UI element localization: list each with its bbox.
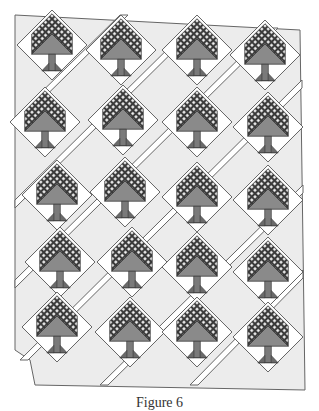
- figure-caption: Figure 6: [0, 395, 319, 411]
